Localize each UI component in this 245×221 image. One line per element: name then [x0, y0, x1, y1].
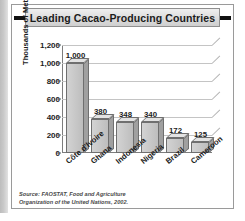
source-note: Source: FAOSTAT, Food and Agriculture Or… — [19, 190, 209, 207]
bar-front-face — [66, 63, 84, 153]
y-axis-tick-mark — [57, 45, 61, 46]
chart-screenshot: Leading Cacao-Producing Countries Thousa… — [0, 0, 245, 221]
y-axis-tick-mark — [57, 135, 61, 136]
source-note-line-1: Source: FAOSTAT, Food and Agriculture — [19, 190, 209, 198]
bar-value-label: 1,000 — [60, 51, 92, 60]
y-axis-tick-mark — [57, 81, 61, 82]
chart-title-banner: Leading Cacao-Producing Countries — [11, 8, 234, 28]
y-axis-tick-mark — [57, 153, 61, 154]
bar-value-label: 340 — [135, 110, 167, 119]
plot-region: Thousands of Metric Tons 02004006008001,… — [16, 31, 229, 183]
y-axis-tick-mark — [57, 99, 61, 100]
plot-depth-right — [212, 35, 223, 143]
bar-c-te-d-ivoire — [66, 63, 84, 153]
bar-value-label: 125 — [185, 130, 217, 139]
y-axis-tick-labels: 02004006008001,0001,200 — [32, 31, 60, 151]
title-box: Leading Cacao-Producing Countries — [25, 8, 220, 27]
source-note-line-2: Organization of the United Nations, 2002… — [19, 198, 209, 206]
gridline — [62, 45, 212, 46]
y-axis-title: Thousands of Metric Tons — [21, 0, 30, 65]
y-axis-tick-mark — [57, 63, 61, 64]
y-axis-tick-mark — [57, 117, 61, 118]
page-title: Leading Cacao-Producing Countries — [30, 12, 215, 24]
page-edge-strip — [0, 0, 8, 213]
